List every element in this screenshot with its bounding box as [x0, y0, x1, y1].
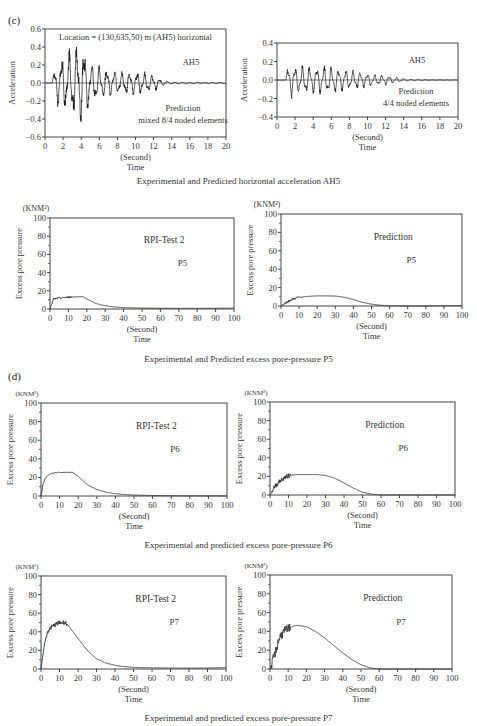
x-tick-label: 80: [193, 313, 202, 323]
y-tick-label: 40: [258, 453, 267, 463]
pore-pressure-series: [50, 296, 234, 309]
x-tick-label: 50: [138, 313, 147, 323]
y-tick-label: 100: [264, 209, 277, 219]
x-tick-label: 60: [148, 500, 157, 510]
chart-area: −0.6−0.4−0.20.00.20.40.60246810121416182…: [0, 0, 477, 726]
annotation-source: RPI-Test 2: [144, 235, 185, 245]
x-axis-label-time: Time: [352, 694, 370, 704]
y-tick-label: 20: [258, 645, 267, 655]
x-tick-label: 12: [381, 121, 390, 131]
plot-frame: [270, 402, 455, 495]
y-unit-label: (KNM²): [254, 200, 281, 209]
y-tick-label: 60: [269, 246, 278, 256]
y-tick-label: 0.0: [30, 78, 41, 88]
x-tick-label: 100: [446, 673, 459, 683]
x-tick-label: 20: [83, 313, 92, 323]
x-axis-label-time: Time: [363, 331, 381, 341]
y-tick-label: 20: [29, 645, 38, 655]
annotation-sensor: P7: [169, 617, 179, 627]
y-tick-label: 20: [258, 471, 267, 481]
y-tick-label: 0: [42, 304, 46, 314]
y-tick-label: 0.2: [30, 60, 41, 70]
x-tick-label: 90: [432, 499, 441, 509]
y-axis-label: Excess pore pressure: [14, 228, 24, 300]
x-tick-label: 100: [220, 673, 233, 683]
x-tick-label: 6: [329, 121, 333, 131]
x-tick-label: 14: [167, 141, 176, 151]
x-axis-label-time: Time: [127, 162, 145, 172]
x-tick-label: 60: [148, 673, 157, 683]
charts-svg: −0.6−0.4−0.20.00.20.40.60246810121416182…: [0, 0, 477, 726]
annotation-source: RPI-Test 2: [136, 421, 177, 431]
x-tick-label: 50: [358, 499, 367, 509]
x-tick-label: 0: [43, 141, 47, 151]
annotation-sensor: P7: [396, 617, 406, 627]
y-tick-label: 40: [258, 626, 267, 636]
x-tick-label: 100: [221, 500, 234, 510]
y-axis-label: Excess pore pressure: [234, 586, 244, 658]
y-tick-label: −0.6: [26, 132, 41, 142]
pore-pressure-series: [281, 296, 462, 306]
x-tick-label: 0: [39, 500, 43, 510]
y-unit-label: (KNM²): [15, 390, 39, 398]
x-tick-label: 40: [119, 313, 128, 323]
x-tick-label: 80: [414, 499, 423, 509]
x-tick-label: 90: [203, 673, 212, 683]
x-tick-label: 60: [375, 673, 384, 683]
y-tick-label: −0.2: [26, 96, 41, 106]
x-tick-label: 80: [411, 673, 420, 683]
x-tick-label: 40: [111, 500, 120, 510]
annotation-prediction: Prediction: [399, 86, 435, 96]
y-tick-label: −0.4: [26, 114, 42, 124]
y-tick-label: 80: [38, 231, 47, 241]
x-tick-label: 4: [79, 141, 84, 151]
x-tick-label: 80: [422, 310, 431, 320]
y-unit-label: (KNM²): [244, 562, 268, 570]
annotation-sensor: P6: [398, 443, 408, 453]
y-tick-label: 80: [29, 417, 38, 427]
pore-pressure-series: [41, 621, 226, 669]
y-tick-label: 20: [269, 283, 278, 293]
x-tick-label: 100: [449, 499, 462, 509]
plot-frame: [41, 576, 226, 669]
x-tick-label: 2: [61, 141, 65, 151]
x-axis-label: (Second): [346, 684, 377, 694]
x-tick-label: 30: [320, 673, 329, 683]
annotation-elements: 4/4 noded elements: [383, 98, 449, 108]
y-tick-label: 100: [253, 570, 266, 580]
x-tick-label: 10: [55, 673, 64, 683]
x-tick-label: 0: [39, 673, 43, 683]
y-tick-label: 100: [24, 571, 37, 581]
y-tick-label: −0.2: [258, 94, 273, 104]
plot-frame: [50, 218, 234, 309]
x-tick-label: 50: [130, 500, 139, 510]
x-tick-label: 4: [311, 121, 316, 131]
x-tick-label: 10: [363, 121, 372, 131]
y-unit-label: (KNM²): [23, 204, 50, 213]
x-tick-label: 10: [284, 673, 293, 683]
x-tick-label: 70: [166, 673, 175, 683]
x-tick-label: 20: [222, 141, 231, 151]
x-axis-label: (Second): [352, 132, 383, 142]
y-tick-label: −0.4: [258, 112, 274, 122]
x-axis-label-time: Time: [125, 694, 143, 704]
x-axis-label-time: Time: [125, 521, 143, 531]
x-tick-label: 20: [302, 673, 311, 683]
y-tick-label: 60: [29, 608, 38, 618]
y-tick-label: 100: [253, 397, 266, 407]
annotation-source: Prediction: [365, 420, 404, 430]
x-tick-label: 90: [430, 673, 439, 683]
y-tick-label: 0: [262, 664, 266, 674]
x-tick-label: 60: [385, 310, 394, 320]
x-tick-label: 70: [395, 499, 404, 509]
y-tick-label: 20: [38, 286, 47, 296]
x-axis-label: (Second): [127, 324, 158, 334]
x-tick-label: 10: [295, 310, 304, 320]
y-tick-label: 40: [38, 268, 47, 278]
x-axis-label: (Second): [118, 684, 149, 694]
x-tick-label: 0: [275, 121, 279, 131]
y-tick-label: 0: [33, 491, 37, 501]
x-tick-label: 70: [403, 310, 412, 320]
x-tick-label: 50: [357, 673, 366, 683]
x-tick-label: 12: [149, 141, 158, 151]
